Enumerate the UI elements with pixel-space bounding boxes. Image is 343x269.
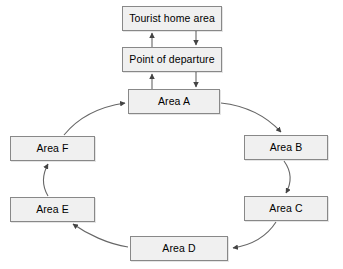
edge-areaC-to-areaD xyxy=(233,222,276,248)
node-area-a[interactable]: Area A xyxy=(128,89,220,114)
node-area-c[interactable]: Area C xyxy=(244,196,328,221)
node-label: Tourist home area xyxy=(125,13,219,24)
node-label: Point of departure xyxy=(125,54,218,65)
node-label: Area B xyxy=(266,142,307,153)
edge-areaF-to-areaA xyxy=(64,103,125,135)
node-label: Area E xyxy=(32,204,73,215)
edge-areaD-to-areaE xyxy=(73,224,128,247)
node-area-d[interactable]: Area D xyxy=(130,236,228,261)
node-tourist-home-area[interactable]: Tourist home area xyxy=(122,6,222,31)
edge-areaA-to-areaB xyxy=(221,103,281,132)
node-area-e[interactable]: Area E xyxy=(10,197,95,222)
node-area-f[interactable]: Area F xyxy=(10,136,95,161)
node-label: Area C xyxy=(265,203,306,214)
node-label: Area D xyxy=(158,243,199,254)
edge-areaE-to-areaF xyxy=(44,164,49,196)
diagram-canvas: Tourist home area Point of departure Are… xyxy=(0,0,343,269)
edge-areaB-to-areaC xyxy=(284,161,290,193)
node-label: Area A xyxy=(154,96,194,107)
node-area-b[interactable]: Area B xyxy=(244,135,328,160)
node-point-of-departure[interactable]: Point of departure xyxy=(122,47,222,72)
node-label: Area F xyxy=(32,143,72,154)
